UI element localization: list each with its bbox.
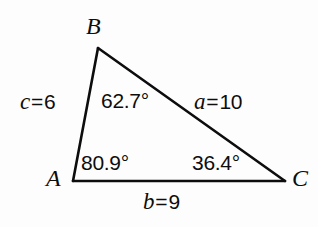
equals-sign-b: = <box>154 190 168 213</box>
vertex-label-c: C <box>292 166 308 190</box>
side-variable-b: b <box>143 189 154 214</box>
side-value-a: 10 <box>219 90 242 113</box>
side-value-b: 9 <box>168 190 179 213</box>
angle-label-b: 62.7° <box>101 90 149 111</box>
angle-label-a: 80.9° <box>81 152 129 173</box>
side-label-a: a=10 <box>194 90 242 113</box>
side-variable-a: a <box>194 89 205 114</box>
vertex-label-a: A <box>46 166 61 190</box>
equals-sign-c: = <box>30 90 44 113</box>
side-label-c: c=6 <box>20 90 56 113</box>
side-label-b: b=9 <box>143 190 180 213</box>
triangle-diagram: B A C 62.7° 80.9° 36.4° c=6 a=10 b=9 <box>0 0 318 227</box>
vertex-label-b: B <box>86 14 101 38</box>
angle-label-c: 36.4° <box>192 152 240 173</box>
side-variable-c: c <box>20 89 30 114</box>
side-value-c: 6 <box>44 90 55 113</box>
equals-sign-a: = <box>205 90 219 113</box>
